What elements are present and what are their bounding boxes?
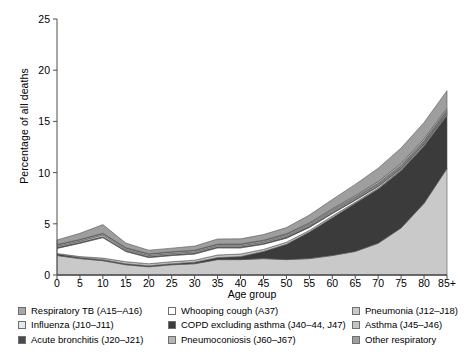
- chart-legend: Respiratory TB (A15–A16)Influenza (J10–J…: [0, 304, 467, 354]
- legend-column: Respiratory TB (A15–A16)Influenza (J10–J…: [18, 304, 143, 348]
- legend-item[interactable]: Pneumoconiosis (J60–J67): [168, 333, 346, 347]
- legend-label: COPD excluding asthma (J40–44, J47): [181, 320, 346, 330]
- legend-item[interactable]: Whooping cough (A37): [168, 304, 346, 318]
- legend-item[interactable]: Respiratory TB (A15–A16): [18, 304, 143, 318]
- legend-swatch-icon: [168, 336, 176, 344]
- legend-swatch-icon: [168, 307, 176, 315]
- legend-label: Influenza (J10–J11): [31, 320, 114, 330]
- legend-item[interactable]: Asthma (J45–J46): [352, 319, 458, 333]
- legend-item[interactable]: Pneumonia (J12–J18): [352, 304, 458, 318]
- legend-column: Pneumonia (J12–J18)Asthma (J45–J46)Other…: [352, 304, 458, 348]
- legend-label: Acute bronchitis (J20–J21): [31, 335, 143, 345]
- legend-label: Asthma (J45–J46): [365, 320, 442, 330]
- legend-label: Respiratory TB (A15–A16): [31, 306, 142, 316]
- x-axis-title: Age group: [57, 288, 447, 300]
- legend-label: Whooping cough (A37): [181, 306, 278, 316]
- legend-swatch-icon: [352, 336, 360, 344]
- legend-label: Pneumoconiosis (J60–J67): [181, 335, 296, 345]
- legend-item[interactable]: Influenza (J10–J11): [18, 319, 143, 333]
- legend-item[interactable]: Other respiratory: [352, 333, 458, 347]
- legend-swatch-icon: [168, 321, 176, 329]
- chart-figure: Percentage of all deaths 0510152025 0510…: [0, 0, 467, 358]
- legend-swatch-icon: [352, 321, 360, 329]
- legend-item[interactable]: Acute bronchitis (J20–J21): [18, 333, 143, 347]
- legend-swatch-icon: [352, 307, 360, 315]
- legend-label: Pneumonia (J12–J18): [365, 306, 458, 316]
- legend-item[interactable]: COPD excluding asthma (J40–44, J47): [168, 319, 346, 333]
- legend-swatch-icon: [18, 321, 26, 329]
- legend-label: Other respiratory: [365, 335, 436, 345]
- legend-swatch-icon: [18, 307, 26, 315]
- legend-column: Whooping cough (A37)COPD excluding asthm…: [168, 304, 346, 348]
- legend-swatch-icon: [18, 336, 26, 344]
